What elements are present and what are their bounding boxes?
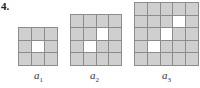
white-cell xyxy=(32,41,44,53)
shaded-cell xyxy=(135,28,147,40)
figure-a3-grid xyxy=(134,2,199,66)
shaded-cell xyxy=(45,53,57,65)
shaded-cell xyxy=(19,53,31,65)
shaded-cell xyxy=(109,41,121,53)
shaded-cell xyxy=(71,15,83,27)
white-cell xyxy=(84,41,96,53)
shaded-cell xyxy=(161,3,173,15)
shaded-cell xyxy=(148,28,160,40)
shaded-cell xyxy=(97,53,109,65)
shaded-cell xyxy=(71,28,83,40)
shaded-cell xyxy=(84,15,96,27)
shaded-cell xyxy=(45,28,57,40)
shaded-cell xyxy=(19,28,31,40)
figure-a1-label: a1 xyxy=(34,69,43,84)
shaded-cell xyxy=(135,16,147,28)
shaded-cell xyxy=(32,28,44,40)
shaded-cell xyxy=(109,15,121,27)
shaded-cell xyxy=(186,41,198,53)
shaded-cell xyxy=(186,53,198,65)
shaded-cell xyxy=(97,41,109,53)
shaded-cell xyxy=(71,41,83,53)
shaded-cell xyxy=(19,41,31,53)
shaded-cell xyxy=(161,16,173,28)
shaded-cell xyxy=(109,28,121,40)
shaded-cell xyxy=(173,28,185,40)
white-cell xyxy=(173,16,185,28)
shaded-cell xyxy=(186,3,198,15)
figure-a2-label: a2 xyxy=(90,69,99,84)
shaded-cell xyxy=(161,53,173,65)
shaded-cell xyxy=(135,41,147,53)
shaded-cell xyxy=(135,3,147,15)
shaded-cell xyxy=(161,41,173,53)
shaded-cell xyxy=(173,41,185,53)
shaded-cell xyxy=(148,53,160,65)
shaded-cell xyxy=(45,41,57,53)
shaded-cell xyxy=(173,3,185,15)
white-cell xyxy=(148,41,160,53)
shaded-cell xyxy=(84,53,96,65)
white-cell xyxy=(161,28,173,40)
shaded-cell xyxy=(84,28,96,40)
white-cell xyxy=(97,28,109,40)
figure-a3-label: a3 xyxy=(162,69,171,84)
shaded-cell xyxy=(173,53,185,65)
shaded-cell xyxy=(186,28,198,40)
figure-a1-grid xyxy=(18,27,58,66)
shaded-cell xyxy=(71,53,83,65)
shaded-cell xyxy=(135,53,147,65)
shaded-cell xyxy=(109,53,121,65)
shaded-cell xyxy=(148,3,160,15)
figure-a2-grid xyxy=(70,14,122,66)
shaded-cell xyxy=(186,16,198,28)
problem-number: 4. xyxy=(1,0,9,12)
shaded-cell xyxy=(148,16,160,28)
shaded-cell xyxy=(32,53,44,65)
shaded-cell xyxy=(97,15,109,27)
